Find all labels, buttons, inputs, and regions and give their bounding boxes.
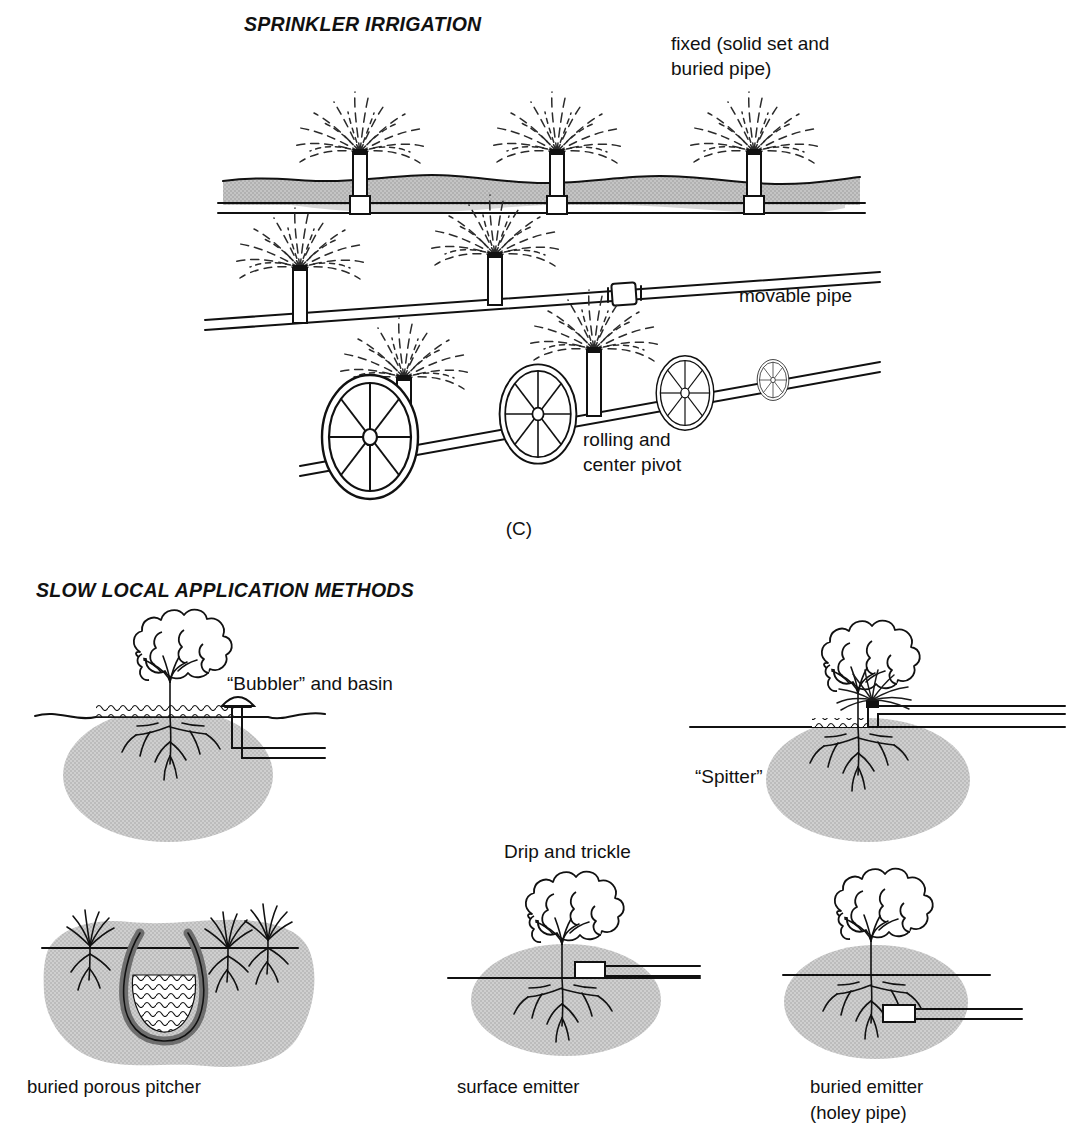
panel-letter: (C) — [506, 518, 532, 539]
fixed-sprinkler-diagram — [218, 92, 865, 214]
caption-buried-emitter: buried emitter — [810, 1076, 923, 1097]
slow-local-section-title: SLOW LOCAL APPLICATION METHODS — [36, 579, 414, 601]
caption-surface-emitter: surface emitter — [457, 1076, 579, 1097]
spitter-label: “Spitter” — [695, 766, 763, 787]
emitter-body — [883, 1005, 915, 1022]
rolling-pivot-diagram: rolling and center pivot — [300, 290, 880, 499]
pivot-wheel-3 — [656, 356, 714, 430]
pivot-wheel-2 — [500, 364, 577, 463]
movable-pipe-label: movable pipe — [739, 285, 852, 306]
basin-water — [96, 705, 234, 717]
sprinkler-nozzle — [488, 252, 502, 258]
riser-pipe — [488, 255, 502, 305]
pipe-fitting — [547, 196, 567, 214]
rolling-label-line1: rolling and — [583, 429, 671, 450]
rolling-label-line2: center pivot — [583, 454, 682, 475]
fixed-label-line2: buried pipe) — [671, 58, 771, 79]
figure-canvas: SPRINKLER IRRIGATION fixed (solid set an… — [0, 0, 1071, 1128]
sprinkler-nozzle — [587, 347, 601, 353]
sprinkler-nozzle — [293, 265, 307, 271]
pipe-fitting — [350, 196, 370, 214]
pivot-wheel-1 — [322, 375, 418, 499]
irrigation-figure: SPRINKLER IRRIGATION fixed (solid set an… — [0, 0, 1071, 1128]
sprinkler-section: SPRINKLER IRRIGATION fixed (solid set an… — [205, 13, 880, 539]
pipe-coupling — [608, 282, 641, 306]
bubbler-label: “Bubbler” and basin — [227, 673, 393, 694]
spitter-wetted-zone — [766, 718, 970, 842]
bubbler-basin-diagram: “Bubbler” and basin — [35, 610, 393, 842]
caption-buried-emitter-sub: (holey pipe) — [810, 1102, 907, 1123]
emitter-body — [575, 962, 605, 978]
slow-local-section: SLOW LOCAL APPLICATION METHODS — [27, 579, 1065, 1123]
sprinkler-nozzle — [397, 375, 411, 381]
spitter-surface-water — [812, 718, 868, 727]
caption-buried-porous-pitcher: buried porous pitcher — [27, 1076, 201, 1097]
buried-emitter-diagram: buried emitter (holey pipe) — [783, 869, 1022, 1123]
ground-line-right — [234, 713, 325, 718]
pivot-wheel-4 — [757, 360, 789, 401]
porous-pitcher-diagram: buried porous pitcher — [27, 904, 314, 1097]
riser-pipe — [293, 268, 307, 323]
sprinkler-nozzle — [747, 149, 761, 155]
surface-emitter-diagram: surface emitter — [448, 872, 700, 1097]
riser-pipe — [587, 350, 601, 416]
movable-sprinkler-1 — [234, 208, 366, 323]
movable-pipe-diagram: movable pipe — [205, 195, 880, 330]
spitter-nozzle — [866, 700, 879, 708]
pipe-fitting — [744, 196, 764, 214]
drip-trickle-label: Drip and trickle — [504, 841, 631, 862]
sprinkler-nozzle — [353, 149, 367, 155]
surface-emitter-wetted-zone — [471, 944, 661, 1056]
bubbler-cap — [222, 697, 254, 706]
spitter-diagram: “Spitter” — [690, 621, 1065, 842]
sprinkler-section-title: SPRINKLER IRRIGATION — [244, 13, 482, 35]
fixed-label-line1: fixed (solid set and — [671, 33, 829, 54]
sprinkler-nozzle — [550, 149, 564, 155]
buried-emitter-wetted-zone — [784, 945, 968, 1059]
